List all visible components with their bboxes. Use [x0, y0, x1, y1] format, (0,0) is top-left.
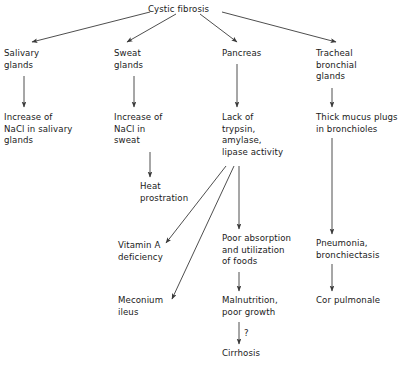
- node-thick_mucus_plugs: Thick mucus plugs in bronchioles: [316, 112, 398, 135]
- node-cystic_fibrosis: Cystic fibrosis: [148, 4, 209, 16]
- edge-label-question-mark: ?: [244, 328, 249, 339]
- node-pneumonia_bronchiectasis: Pneumonia, bronchiectasis: [316, 238, 379, 261]
- node-pancreas: Pancreas: [222, 48, 261, 60]
- node-vitamin_a_deficiency: Vitamin A deficiency: [118, 240, 163, 263]
- node-meconium_ileus: Meconium ileus: [118, 295, 163, 318]
- edge-cf-to-tracheal: [222, 12, 336, 42]
- edge-cf-to-salivary: [32, 12, 150, 42]
- node-heat_prostration: Heat prostration: [140, 181, 188, 204]
- node-salivary_glands: Salivary glands: [4, 48, 39, 71]
- edge-lack-to-vitamin-a: [166, 166, 226, 243]
- node-lack_of_enzymes: Lack of trypsin, amylase, lipase activit…: [222, 112, 283, 158]
- node-poor_absorption: Poor absorption and utilization of foods: [222, 233, 291, 268]
- node-tracheal_bronchial_glands: Tracheal bronchial glands: [316, 48, 357, 83]
- node-sweat_glands: Sweat glands: [114, 48, 143, 71]
- node-malnutrition: Malnutrition, poor growth: [222, 295, 278, 318]
- node-cirrhosis: Cirrhosis: [222, 348, 260, 360]
- edge-cf-to-pancreas: [200, 14, 237, 42]
- edge-cf-to-sweat: [127, 14, 176, 42]
- node-increase_nacl_sweat: Increase of NaCl in sweat: [114, 112, 162, 147]
- node-cor_pulmonale: Cor pulmonale: [316, 295, 380, 307]
- node-increase_nacl_salivary: Increase of NaCl in salivary glands: [4, 112, 72, 147]
